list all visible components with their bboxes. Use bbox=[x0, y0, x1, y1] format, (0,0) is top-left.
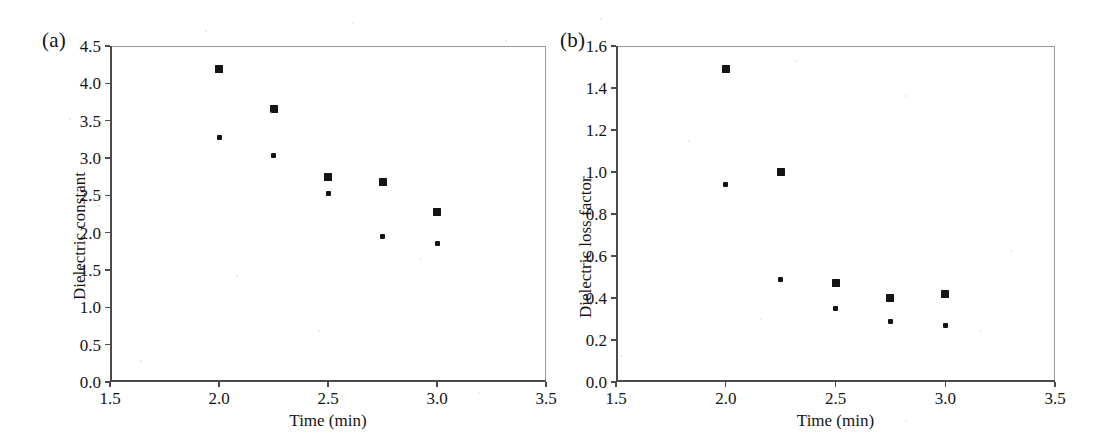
scan-speckle-18 bbox=[69, 118, 71, 120]
data-point-a-series-2-4 bbox=[435, 241, 440, 246]
scan-speckle-11 bbox=[905, 95, 907, 97]
y-tick-b-6 bbox=[611, 129, 616, 130]
x-axis-title-a: Time (min) bbox=[110, 411, 546, 431]
y-tick-a-8 bbox=[105, 83, 110, 84]
y-tick-label-a-1: 0.5 bbox=[80, 336, 101, 353]
scan-speckle-19 bbox=[980, 330, 982, 332]
x-tick-label-b-4: 3.5 bbox=[1044, 390, 1065, 407]
scan-speckle-13 bbox=[760, 318, 762, 320]
panel-a-label: (a) bbox=[42, 28, 66, 53]
data-point-b-series-2-4 bbox=[943, 323, 948, 328]
y-tick-a-3 bbox=[105, 269, 110, 270]
data-point-b-series-2-3 bbox=[888, 319, 893, 324]
y-tick-label-b-1: 0.2 bbox=[586, 332, 607, 349]
data-point-a-series-2-0 bbox=[217, 135, 222, 140]
x-tick-a-0 bbox=[109, 382, 110, 387]
y-tick-label-b-3: 0.6 bbox=[586, 248, 607, 265]
scan-speckle-16 bbox=[352, 420, 354, 422]
x-tick-label-a-0: 1.5 bbox=[99, 390, 120, 407]
x-tick-a-2 bbox=[327, 382, 328, 387]
y-tick-b-3 bbox=[611, 255, 616, 256]
x-tick-label-b-3: 3.0 bbox=[935, 390, 956, 407]
scan-speckle-4 bbox=[270, 112, 272, 114]
data-point-b-series-1-3 bbox=[886, 294, 894, 302]
scan-speckle-2 bbox=[505, 40, 507, 42]
y-tick-label-a-5: 2.5 bbox=[80, 187, 101, 204]
plot-area-b: Time (min) Dielectric loss factor 0.00.2… bbox=[616, 46, 1055, 382]
y-tick-label-a-7: 3.5 bbox=[80, 112, 101, 129]
scan-speckle-12 bbox=[1010, 250, 1012, 252]
y-tick-label-b-4: 0.8 bbox=[586, 206, 607, 223]
y-tick-label-b-0: 0.0 bbox=[586, 374, 607, 391]
y-tick-b-5 bbox=[611, 171, 616, 172]
x-tick-b-3 bbox=[945, 382, 946, 387]
y-tick-label-b-8: 1.6 bbox=[586, 38, 607, 55]
y-tick-label-b-7: 1.4 bbox=[586, 80, 607, 97]
scan-speckle-9 bbox=[688, 140, 690, 142]
plot-area-a: Time (min) Dielectric constant 0.00.51.0… bbox=[110, 46, 546, 382]
plot-right-rule-b bbox=[1054, 46, 1055, 382]
scan-speckle-3 bbox=[98, 205, 100, 207]
scan-speckle-7 bbox=[140, 360, 142, 362]
data-point-a-series-1-2 bbox=[324, 173, 332, 181]
data-point-b-series-1-0 bbox=[722, 65, 730, 73]
y-tick-a-5 bbox=[105, 195, 110, 196]
y-tick-b-8 bbox=[611, 45, 616, 46]
data-point-a-series-2-1 bbox=[271, 153, 276, 158]
scan-speckle-0 bbox=[205, 30, 207, 32]
scan-speckle-10 bbox=[795, 60, 797, 62]
data-point-b-series-2-1 bbox=[778, 277, 783, 282]
y-tick-label-b-5: 1.0 bbox=[586, 164, 607, 181]
data-point-b-series-2-0 bbox=[723, 182, 728, 187]
scan-speckle-14 bbox=[620, 355, 622, 357]
y-tick-label-a-8: 4.0 bbox=[80, 75, 101, 92]
x-tick-a-1 bbox=[218, 382, 219, 387]
data-point-a-series-1-3 bbox=[379, 178, 387, 186]
y-tick-label-b-6: 1.2 bbox=[586, 122, 607, 139]
scan-speckle-1 bbox=[352, 22, 354, 24]
x-tick-b-2 bbox=[835, 382, 836, 387]
y-tick-label-a-6: 3.0 bbox=[80, 150, 101, 167]
y-tick-a-6 bbox=[105, 157, 110, 158]
y-tick-label-a-2: 1.0 bbox=[80, 299, 101, 316]
plot-top-rule-b bbox=[616, 46, 1055, 47]
data-point-b-series-1-2 bbox=[832, 279, 840, 287]
y-tick-b-1 bbox=[611, 339, 616, 340]
data-point-a-series-2-3 bbox=[380, 234, 385, 239]
data-point-a-series-1-0 bbox=[215, 65, 223, 73]
figure-scatter-dielectric-properties: (a) Time (min) Dielectric constant 0.00.… bbox=[0, 0, 1106, 437]
plot-top-rule-a bbox=[110, 46, 546, 47]
y-tick-b-2 bbox=[611, 297, 616, 298]
y-tick-a-7 bbox=[105, 120, 110, 121]
y-tick-label-a-0: 0.0 bbox=[80, 374, 101, 391]
x-tick-label-b-1: 2.0 bbox=[715, 390, 736, 407]
data-point-b-series-2-2 bbox=[833, 306, 838, 311]
y-tick-b-7 bbox=[611, 87, 616, 88]
y-tick-label-a-9: 4.5 bbox=[80, 38, 101, 55]
y-tick-label-a-4: 2.0 bbox=[80, 224, 101, 241]
data-point-b-series-1-4 bbox=[941, 290, 949, 298]
scan-speckle-21 bbox=[236, 275, 238, 277]
y-axis-spine-a bbox=[110, 46, 112, 382]
data-point-a-series-1-4 bbox=[433, 208, 441, 216]
y-axis-spine-b bbox=[616, 46, 618, 382]
x-tick-b-4 bbox=[1054, 382, 1055, 387]
y-tick-a-1 bbox=[105, 344, 110, 345]
panel-a: (a) Time (min) Dielectric constant 0.00.… bbox=[0, 0, 560, 437]
panel-b: (b) Time (min) Dielectric loss factor 0.… bbox=[546, 0, 1106, 437]
scan-speckle-15 bbox=[478, 392, 480, 394]
x-tick-label-a-3: 3.0 bbox=[426, 390, 447, 407]
x-tick-a-3 bbox=[436, 382, 437, 387]
x-axis-title-b: Time (min) bbox=[616, 411, 1055, 431]
y-tick-a-9 bbox=[105, 45, 110, 46]
x-tick-label-b-0: 1.5 bbox=[605, 390, 626, 407]
scan-speckle-17 bbox=[905, 420, 907, 422]
x-tick-label-a-1: 2.0 bbox=[208, 390, 229, 407]
panel-b-label: (b) bbox=[560, 28, 585, 53]
y-tick-a-2 bbox=[105, 307, 110, 308]
x-tick-b-1 bbox=[725, 382, 726, 387]
scan-speckle-6 bbox=[420, 258, 422, 260]
x-tick-b-0 bbox=[615, 382, 616, 387]
y-tick-b-4 bbox=[611, 213, 616, 214]
x-tick-label-a-2: 2.5 bbox=[317, 390, 338, 407]
